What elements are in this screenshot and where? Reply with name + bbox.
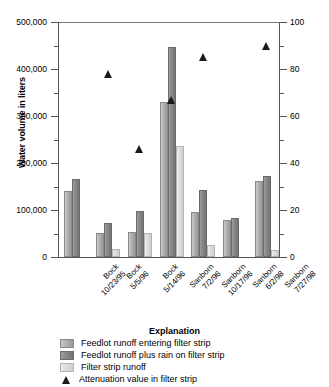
- bar-series-0-cat-6: [255, 181, 263, 257]
- y-tick-major-right: [279, 210, 287, 211]
- legend-triangle-icon: [60, 375, 72, 384]
- attenuation-marker-cat-3: [167, 96, 175, 104]
- bar-series-2-cat-3: [176, 146, 184, 257]
- y-tick-label-right: 100: [290, 18, 304, 27]
- attenuation-marker-cat-2: [135, 145, 143, 153]
- y-tick-major-right: [279, 22, 287, 23]
- bar-series-0-cat-5: [223, 220, 231, 257]
- y-tick-major-right: [279, 69, 287, 70]
- y-tick-label-left: 100,000: [16, 206, 47, 215]
- x-axis-label-1: Bock5/5/96: [122, 262, 151, 291]
- legend-entries: Feedlot runoff entering filter stripFeed…: [0, 338, 329, 385]
- y-tick-label-left: 200,000: [16, 159, 47, 168]
- legend-swatch-2: [60, 363, 74, 372]
- bar-series-1-cat-1: [104, 223, 112, 257]
- bar-series-1-cat-4: [199, 190, 207, 257]
- legend-entry-3: Attenuation value in filter strip: [0, 374, 329, 385]
- legend-entry-0: Feedlot runoff entering filter strip: [0, 338, 329, 349]
- y-tick-label-left: 400,000: [16, 65, 47, 74]
- bar-series-1-cat-2: [136, 211, 144, 257]
- y-tick-label-right: 80: [290, 65, 299, 74]
- attenuation-marker-cat-1: [104, 70, 112, 78]
- bar-series-1-cat-0: [72, 179, 80, 257]
- x-axis-label-4: Sanborn10/17/96: [219, 262, 254, 297]
- y-tick-label-right: 60: [290, 112, 299, 121]
- y-tick-label-right: 0: [290, 253, 295, 262]
- legend-entry-1: Feedlot runoff plus rain on filter strip: [0, 350, 329, 361]
- x-axis-label-6: Sanborn7/27/98: [283, 262, 318, 297]
- y-tick-major-right: [279, 257, 287, 258]
- triangle-marker-icon: [62, 376, 70, 384]
- x-axis-line: [58, 257, 280, 258]
- bar-series-0-cat-2: [128, 232, 136, 257]
- plot-area: [58, 22, 280, 257]
- chart-legend: Explanation Feedlot runoff entering filt…: [0, 326, 329, 386]
- bar-series-0-cat-0: [64, 191, 72, 257]
- bar-series-2-cat-6: [271, 250, 279, 257]
- bar-series-1-cat-6: [263, 176, 271, 257]
- bar-series-1-cat-5: [231, 218, 239, 257]
- bar-series-2-cat-1: [112, 249, 120, 257]
- legend-label-1: Feedlot runoff plus rain on filter strip: [81, 350, 224, 361]
- legend-label-0: Feedlot runoff entering filter strip: [81, 338, 210, 349]
- bar-series-0-cat-3: [160, 102, 168, 257]
- bar-series-1-cat-3: [168, 47, 176, 257]
- y-tick-label-left: 0: [42, 253, 47, 262]
- y-tick-label-right: 20: [290, 206, 299, 215]
- y-tick-major-right: [279, 116, 287, 117]
- y-tick-major-right: [279, 163, 287, 164]
- x-axis-label-2: Bock5/14/96: [155, 262, 187, 294]
- legend-label-3: Attenuation value in filter strip: [79, 374, 197, 385]
- bar-series-0-cat-1: [96, 233, 104, 257]
- bar-series-2-cat-4: [207, 245, 215, 257]
- x-axis-label-5: Sanborn6/2/98: [251, 262, 286, 297]
- x-axis-label-3: Sanborn7/2/96: [187, 262, 222, 297]
- legend-entry-2: Filter strip runoff: [0, 362, 329, 373]
- legend-swatch-0: [60, 339, 74, 348]
- legend-title: Explanation: [0, 326, 329, 336]
- y-axis-left-title: Water volume in liters: [18, 53, 27, 193]
- y-tick-label-left: 500,000: [16, 18, 47, 27]
- chart-figure: Water volume in liters Attenuation value…: [0, 0, 329, 387]
- legend-label-2: Filter strip runoff: [81, 362, 146, 373]
- y-tick-label-left: 300,000: [16, 112, 47, 121]
- bar-series-0-cat-4: [191, 212, 199, 257]
- attenuation-marker-cat-6: [262, 42, 270, 50]
- attenuation-marker-cat-4: [199, 53, 207, 61]
- y-tick-label-right: 40: [290, 159, 299, 168]
- legend-swatch-1: [60, 351, 74, 360]
- bar-series-2-cat-2: [144, 233, 152, 257]
- y-tick-major-left: [51, 257, 59, 258]
